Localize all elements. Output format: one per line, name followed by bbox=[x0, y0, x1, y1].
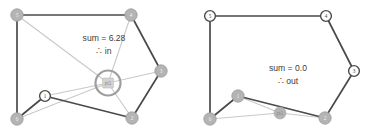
diagram-render-root: pt1012345sum = 6.28∴ inpt1012345sum = 0.… bbox=[11, 9, 360, 125]
ray-to-vertex-0 bbox=[210, 113, 280, 119]
polygon-vertex-label-2: 2 bbox=[131, 115, 134, 121]
winding-sum-label-right: sum = 0.0 bbox=[269, 63, 307, 73]
polygon-vertex-label-4: 4 bbox=[130, 12, 133, 18]
polygon-vertex-label-3: 3 bbox=[353, 68, 356, 74]
test-point-label: pt1 bbox=[105, 81, 112, 86]
classification-label-right: ∴ out bbox=[278, 76, 299, 86]
polygon-vertex-label-2: 2 bbox=[324, 115, 327, 121]
polygon-vertex-label-0: 0 bbox=[16, 116, 19, 122]
classification-label-left: ∴ in bbox=[96, 46, 111, 56]
polygon-vertex-label-1: 1 bbox=[44, 93, 47, 99]
polygon-vertex-label-5: 5 bbox=[16, 12, 19, 18]
polygon-vertex-label-3: 3 bbox=[160, 68, 163, 74]
test-point-label: pt1 bbox=[277, 111, 284, 116]
polygon-vertex-label-4: 4 bbox=[325, 13, 328, 19]
figure-canvas: pt1012345sum = 6.28∴ inpt1012345sum = 0.… bbox=[0, 0, 380, 130]
ray-group-right bbox=[210, 96, 325, 119]
polygon-edge-2-3 bbox=[325, 71, 354, 118]
panel-left: pt1012345sum = 6.28∴ in bbox=[11, 9, 167, 125]
polygon-vertex-label-1: 1 bbox=[237, 93, 240, 99]
polygon-edge-3-4 bbox=[131, 15, 161, 71]
polygon-edge-3-4 bbox=[326, 16, 354, 71]
winding-sum-label-left: sum = 6.28 bbox=[83, 33, 126, 43]
polygon-vertex-label-0: 0 bbox=[209, 116, 212, 122]
winding-number-figure: pt1012345sum = 6.28∴ inpt1012345sum = 0.… bbox=[0, 0, 380, 130]
panel-right: pt1012345sum = 0.0∴ out bbox=[204, 11, 360, 126]
polygon-edge-2-3 bbox=[132, 71, 161, 118]
ray-to-vertex-5 bbox=[17, 15, 108, 83]
polygon-vertex-label-5: 5 bbox=[209, 13, 212, 19]
